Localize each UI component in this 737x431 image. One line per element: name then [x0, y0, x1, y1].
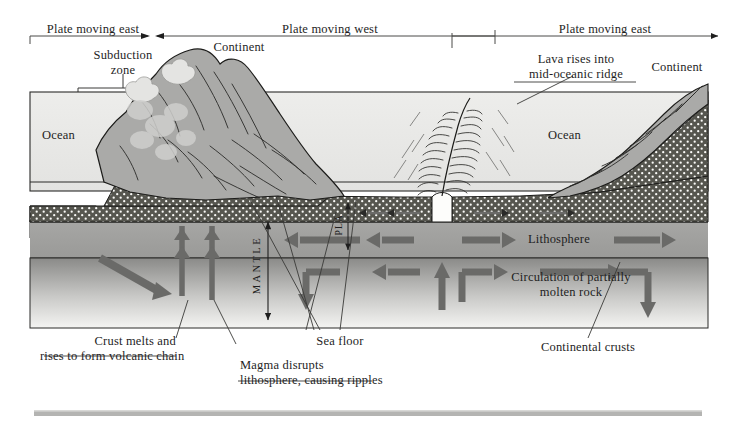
continent-left-label: Continent [190, 40, 288, 55]
ocean-left-label: Ocean [42, 128, 75, 143]
subduction-zone-label: Subduction zone [76, 48, 170, 78]
header-label-plate-moving-east-left: Plate moving east [34, 22, 152, 37]
continent-right-label: Continent [628, 60, 726, 75]
plate-label: PLA [334, 214, 345, 236]
circulation-label: Circulation of partially molten rock [486, 270, 656, 300]
crust-melts-label: Crust melts and rises to form volcanic c… [40, 334, 176, 364]
lithosphere-label: Lithosphere [528, 232, 590, 247]
tectonics-diagram: Plate moving east Plate moving west Plat… [0, 0, 737, 431]
continental-crusts-label: Continental crusts [518, 340, 658, 355]
mantle-label: MANTLE [251, 236, 263, 294]
sea-floor-label: Sea floor [288, 334, 392, 349]
lava-ridge-label: Lava rises into mid-oceanic ridge [508, 52, 644, 82]
ocean-right-label: Ocean [548, 128, 581, 143]
header-label-plate-moving-west: Plate moving west [230, 22, 430, 37]
magma-disrupts-label: Magma disrupts lithosphere, causing ripp… [240, 358, 383, 388]
header-label-plate-moving-east-right: Plate moving east [520, 22, 690, 37]
footer-bar [34, 410, 702, 416]
